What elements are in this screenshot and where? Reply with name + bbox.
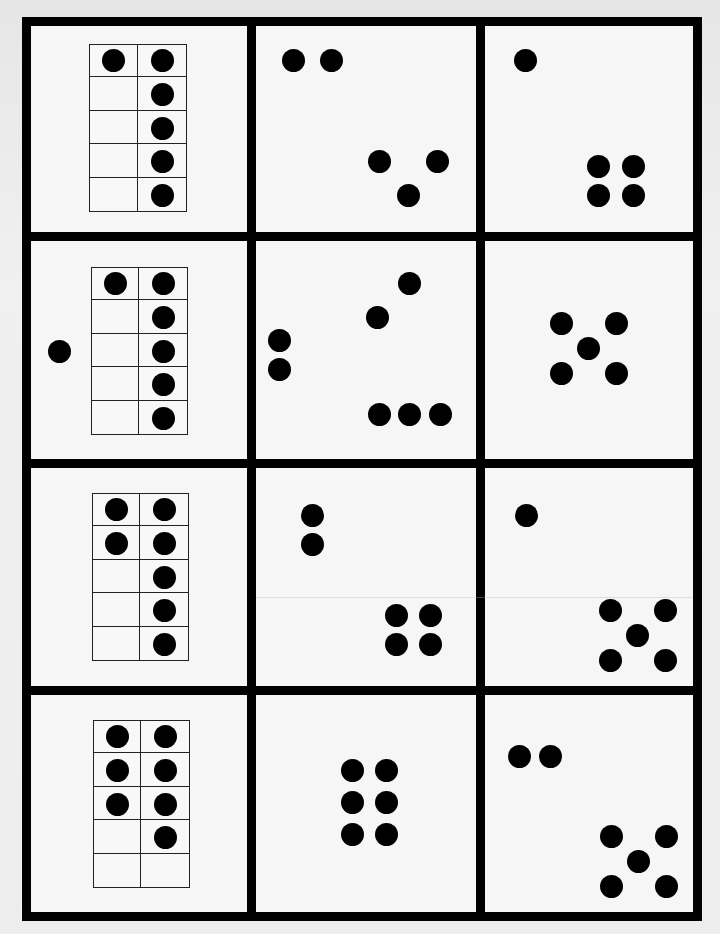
ten-frame-counter bbox=[105, 498, 128, 521]
ten-frame-cell bbox=[89, 178, 138, 212]
pattern-dot bbox=[419, 604, 442, 627]
pattern-dot bbox=[320, 49, 343, 72]
ten-frame-counter bbox=[105, 532, 128, 555]
pattern-dot bbox=[508, 745, 531, 768]
pattern-dot bbox=[622, 155, 645, 178]
pattern-dot bbox=[627, 850, 650, 873]
pattern-dot bbox=[301, 504, 324, 527]
pattern-dot bbox=[600, 875, 623, 898]
ten-frame-counter bbox=[152, 340, 175, 363]
pattern-dot bbox=[655, 875, 678, 898]
pattern-dot bbox=[385, 633, 408, 656]
pattern-dot bbox=[397, 184, 420, 207]
pattern-dot bbox=[577, 337, 600, 360]
pattern-dot bbox=[341, 791, 364, 814]
ten-frame-counter bbox=[151, 117, 174, 140]
ten-frame-counter bbox=[153, 633, 176, 656]
ten-frame-counter bbox=[151, 83, 174, 106]
pattern-dot bbox=[375, 759, 398, 782]
pattern-dot bbox=[341, 759, 364, 782]
ten-frame-cell bbox=[93, 854, 142, 888]
ten-frame-cell bbox=[92, 560, 141, 594]
pattern-dot bbox=[599, 649, 622, 672]
pattern-dot bbox=[398, 272, 421, 295]
pattern-dot bbox=[550, 362, 573, 385]
ten-frame-cell bbox=[89, 77, 138, 111]
pattern-dot bbox=[368, 150, 391, 173]
ten-frame-cell bbox=[91, 300, 140, 334]
pattern-dot bbox=[626, 624, 649, 647]
ten-frame-cell bbox=[93, 820, 142, 854]
pattern-dot bbox=[301, 533, 324, 556]
pattern-dot bbox=[515, 504, 538, 527]
ten-frame-counter bbox=[151, 150, 174, 173]
pattern-dot bbox=[587, 184, 610, 207]
paper-crease bbox=[256, 597, 693, 598]
pattern-dot bbox=[514, 49, 537, 72]
pattern-dot bbox=[655, 825, 678, 848]
ten-frame-counter bbox=[152, 306, 175, 329]
pattern-dot bbox=[550, 312, 573, 335]
pattern-dot bbox=[375, 791, 398, 814]
ten-frame-counter bbox=[106, 725, 129, 748]
pattern-dot bbox=[539, 745, 562, 768]
pattern-dot bbox=[600, 825, 623, 848]
ten-frame-counter bbox=[153, 566, 176, 589]
extra-dot bbox=[48, 340, 71, 363]
ten-frame-cell bbox=[91, 334, 140, 368]
pattern-dot bbox=[268, 358, 291, 381]
pattern-dot bbox=[385, 604, 408, 627]
pattern-dot bbox=[368, 403, 391, 426]
card-dot-pattern-r2c2 bbox=[256, 241, 476, 459]
pattern-dot bbox=[599, 599, 622, 622]
ten-frame-cell bbox=[89, 144, 138, 178]
worksheet-page bbox=[0, 0, 720, 934]
pattern-dot bbox=[268, 329, 291, 352]
card-dot-pattern-r4c2 bbox=[256, 695, 476, 912]
pattern-dot bbox=[605, 312, 628, 335]
pattern-dot bbox=[654, 649, 677, 672]
pattern-dot bbox=[605, 362, 628, 385]
pattern-dot bbox=[429, 403, 452, 426]
ten-frame-counter bbox=[106, 759, 129, 782]
pattern-dot bbox=[622, 184, 645, 207]
ten-frame-counter bbox=[106, 793, 129, 816]
pattern-dot bbox=[587, 155, 610, 178]
pattern-dot bbox=[426, 150, 449, 173]
ten-frame-counter bbox=[104, 272, 127, 295]
ten-frame-cell bbox=[92, 593, 141, 627]
pattern-dot bbox=[398, 403, 421, 426]
pattern-dot bbox=[654, 599, 677, 622]
ten-frame-counter bbox=[151, 184, 174, 207]
pattern-dot bbox=[419, 633, 442, 656]
ten-frame-cell bbox=[91, 401, 140, 435]
ten-frame-counter bbox=[154, 793, 177, 816]
ten-frame-cell bbox=[91, 367, 140, 401]
ten-frame-cell bbox=[92, 627, 141, 661]
pattern-dot bbox=[341, 823, 364, 846]
ten-frame-counter bbox=[153, 532, 176, 555]
pattern-dot bbox=[375, 823, 398, 846]
ten-frame-counter bbox=[154, 759, 177, 782]
ten-frame-cell bbox=[89, 111, 138, 145]
ten-frame-counter bbox=[152, 407, 175, 430]
ten-frame-cell bbox=[141, 854, 190, 888]
pattern-dot bbox=[366, 306, 389, 329]
card-dot-pattern-r3c2 bbox=[256, 468, 476, 686]
pattern-dot bbox=[282, 49, 305, 72]
